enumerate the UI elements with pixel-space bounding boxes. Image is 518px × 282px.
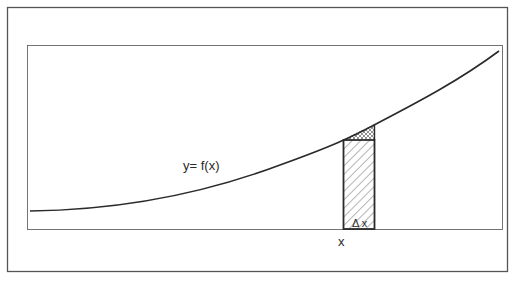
curve-f-of-x bbox=[30, 51, 499, 211]
strip-hatch bbox=[344, 140, 375, 229]
curve-label: y= f(x) bbox=[183, 158, 219, 173]
outer-frame bbox=[8, 8, 508, 272]
x-label: x bbox=[338, 234, 345, 249]
delta-x-label: Δ x bbox=[352, 217, 368, 229]
plot-box bbox=[28, 46, 503, 230]
area-under-curve-diagram: y= f(x) x Δ x bbox=[0, 0, 518, 282]
